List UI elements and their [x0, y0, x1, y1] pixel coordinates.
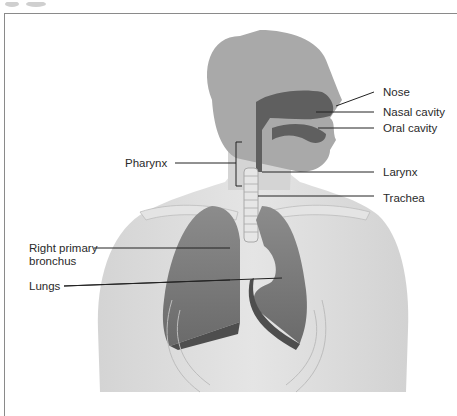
label-lungs: Lungs	[29, 280, 60, 293]
label-pharynx: Pharynx	[125, 157, 167, 170]
trachea	[244, 168, 258, 242]
label-oral-cavity: Oral cavity	[383, 122, 437, 135]
label-trachea: Trachea	[383, 192, 425, 205]
head	[207, 30, 342, 172]
label-larynx: Larynx	[383, 166, 418, 179]
label-right-primary-bronchus-line2: bronchus	[29, 255, 76, 268]
label-nose: Nose	[383, 86, 410, 99]
label-nasal-cavity: Nasal cavity	[383, 106, 445, 119]
label-right-primary-bronchus-line1: Right primary	[29, 242, 97, 255]
